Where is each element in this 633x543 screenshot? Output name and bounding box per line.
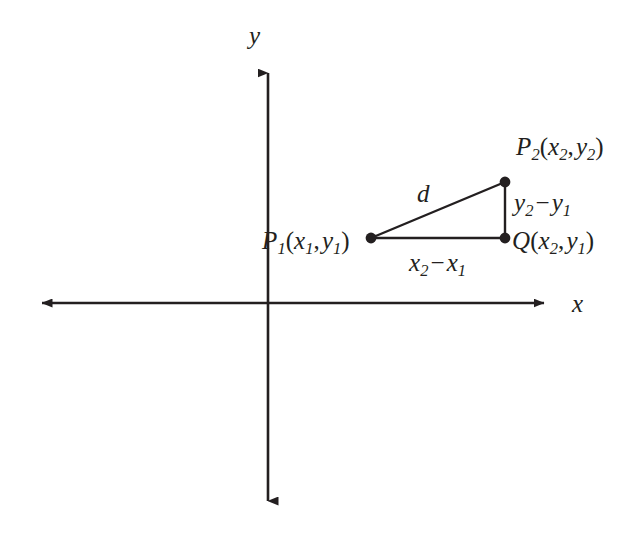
- delta-x-right: x: [447, 249, 458, 276]
- point-label-p2: P2(x2,y2): [516, 134, 604, 159]
- point-label-p2-index: 2: [531, 145, 539, 164]
- point-label-q-x: x: [539, 227, 550, 254]
- point-label-p2-name: P: [516, 133, 531, 160]
- paren-open: (: [540, 133, 548, 160]
- point-label-q-x-index: 2: [550, 239, 558, 258]
- point-label-p1-y: y: [322, 227, 333, 254]
- point-label-p2-y: y: [576, 133, 587, 160]
- point-label-q-y: y: [566, 227, 577, 254]
- point-label-p1-index: 1: [277, 239, 285, 258]
- delta-y-right-index: 1: [563, 201, 571, 220]
- x-axis-label: x: [572, 291, 583, 316]
- paren-open: (: [530, 227, 538, 254]
- comma: ,: [568, 133, 576, 160]
- paren-close: ): [586, 227, 594, 254]
- delta-x-right-index: 1: [458, 261, 466, 280]
- y-axis-label: y: [249, 23, 260, 48]
- figure-canvas: [0, 0, 633, 543]
- segment-label-delta-x: x2−x1: [409, 250, 466, 275]
- minus-operator: −: [533, 189, 551, 216]
- point-label-p1-x: x: [294, 227, 305, 254]
- point-marker-p1: [366, 233, 377, 244]
- point-label-p2-x-index: 2: [559, 145, 567, 164]
- point-marker-p2: [500, 177, 511, 188]
- point-label-q-y-index: 1: [578, 239, 586, 258]
- delta-x-left: x: [409, 249, 420, 276]
- delta-y-right: y: [552, 189, 563, 216]
- paren-open: (: [286, 227, 294, 254]
- point-label-q-name: Q: [512, 227, 530, 254]
- point-label-p1: P1(x1,y1): [262, 228, 350, 253]
- point-label-p1-name: P: [262, 227, 277, 254]
- point-label-p1-x-index: 1: [305, 239, 313, 258]
- comma: ,: [314, 227, 322, 254]
- point-marker-q: [500, 233, 511, 244]
- segment-hypotenuse-d: [371, 182, 505, 238]
- delta-y-left: y: [514, 189, 525, 216]
- distance-formula-figure: y x d P1(x1,y1) P2(x2,y2) Q(x2,y1) x2−x1…: [0, 0, 633, 543]
- paren-close: ): [341, 227, 349, 254]
- segment-label-d: d: [417, 181, 430, 206]
- segment-label-delta-y: y2−y1: [514, 190, 571, 215]
- paren-close: ): [595, 133, 603, 160]
- point-label-p2-x: x: [548, 133, 559, 160]
- point-label-q: Q(x2,y1): [512, 228, 594, 253]
- minus-operator: −: [428, 249, 446, 276]
